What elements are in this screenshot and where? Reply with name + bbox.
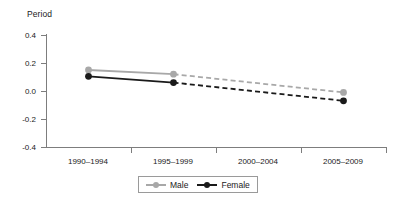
x-tick-mark — [216, 148, 217, 153]
y-tick-label: 0.0 — [6, 87, 36, 96]
y-tick-label: -0.4 — [6, 143, 36, 152]
x-tick-mark — [301, 148, 302, 153]
data-point-female — [170, 79, 177, 86]
x-tick-label: 2000–2004 — [213, 157, 303, 166]
y-tick-mark — [41, 147, 46, 148]
x-tick-label: 1990–1994 — [43, 157, 133, 166]
legend-item-male: Male — [146, 180, 188, 190]
x-tick-label: 2005–2009 — [298, 157, 388, 166]
y-axis-line — [46, 34, 47, 148]
x-tick-mark — [131, 148, 132, 153]
chart-legend: Male Female — [138, 176, 258, 193]
y-tick-label: -0.2 — [6, 115, 36, 124]
data-point-male — [340, 89, 347, 96]
series-line-male — [174, 74, 344, 92]
series-line-male — [89, 70, 174, 74]
series-line-female — [89, 76, 174, 82]
y-tick-label: 0.2 — [6, 59, 36, 68]
y-tick-mark — [41, 35, 46, 36]
x-tick-mark — [386, 148, 387, 153]
y-tick-label: 0.4 — [6, 31, 36, 40]
data-point-female — [85, 73, 92, 80]
legend-label-female: Female — [221, 180, 249, 190]
line-chart: Period 0.4 0.2 0.0 -0.2 -0.4 1990–1994 1… — [0, 0, 404, 206]
data-point-female — [340, 97, 347, 104]
legend-marker-male-icon — [146, 180, 166, 189]
legend-item-female: Female — [197, 180, 249, 190]
legend-label-male: Male — [170, 180, 188, 190]
y-tick-mark — [41, 91, 46, 92]
y-tick-mark — [41, 119, 46, 120]
series-line-female — [174, 83, 344, 101]
axis-title: Period — [27, 9, 52, 19]
data-point-male — [85, 67, 92, 74]
y-tick-mark — [41, 63, 46, 64]
data-point-male — [170, 71, 177, 78]
legend-marker-female-icon — [197, 180, 217, 189]
x-tick-label: 1995–1999 — [128, 157, 218, 166]
